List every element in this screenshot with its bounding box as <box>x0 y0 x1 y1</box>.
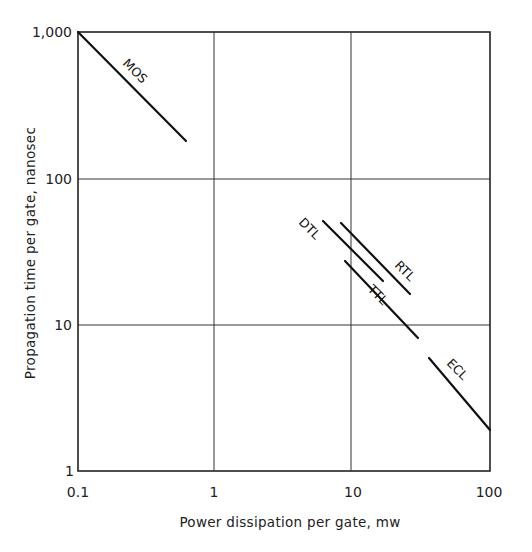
y-tick-1: 1 <box>65 463 74 479</box>
x-tick-100: 100 <box>476 484 503 500</box>
series-label-dtl: DTL <box>296 215 324 243</box>
series-line-dtl <box>323 221 383 281</box>
series-labels: MOS DTL RTL TTL ECL <box>120 56 471 383</box>
series-line-mos <box>78 32 186 141</box>
x-axis-title: Power dissipation per gate, mw <box>179 514 400 530</box>
chart-canvas: 1,000 100 10 1 0.1 1 10 100 Power dissip… <box>0 0 532 552</box>
x-axis-ticks: 0.1 1 10 100 <box>67 484 503 500</box>
y-tick-100: 100 <box>45 171 72 187</box>
grid <box>78 32 490 471</box>
y-axis-ticks: 1,000 100 10 1 <box>32 24 74 479</box>
y-tick-1000: 1,000 <box>32 24 72 40</box>
y-tick-10: 10 <box>54 317 72 333</box>
series-label-mos: MOS <box>120 56 151 87</box>
x-tick-1: 1 <box>210 484 219 500</box>
series-lines <box>78 32 490 430</box>
plot-frame <box>78 32 490 471</box>
y-axis-title: Propagation time per gate, nanosec <box>22 127 38 379</box>
x-tick-0.1: 0.1 <box>67 484 89 500</box>
x-tick-10: 10 <box>344 484 362 500</box>
